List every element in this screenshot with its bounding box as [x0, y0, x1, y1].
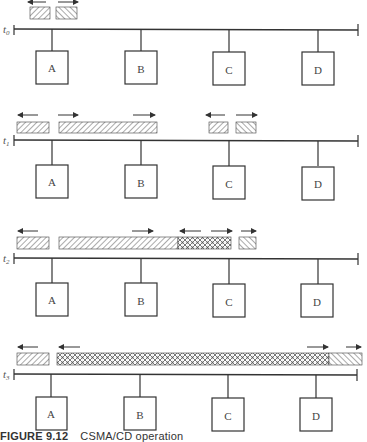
frame-hatch — [17, 237, 49, 249]
frame-hatch — [59, 237, 178, 249]
station-label: C — [224, 410, 231, 422]
station-label: B — [137, 295, 144, 307]
panel-t2: t2 A B C D — [3, 231, 358, 317]
station-label: B — [137, 63, 144, 75]
station-label: C — [225, 64, 232, 76]
frame-hatch — [59, 122, 157, 133]
frame-hatch — [17, 353, 49, 365]
station-label: A — [48, 62, 56, 74]
panel-t1: t1 A B C D — [3, 115, 358, 200]
frame-hatch — [56, 7, 77, 19]
station-label: D — [314, 64, 322, 76]
panel-t0: t0 A B C D — [3, 2, 358, 85]
frame-collision — [178, 237, 231, 249]
bus-line — [14, 374, 357, 375]
frame-hatch — [209, 122, 228, 133]
station-label: C — [225, 296, 232, 308]
station-label: A — [48, 176, 56, 188]
frame-hatch — [17, 122, 49, 133]
panel-t3: t3 A B C D — [3, 347, 362, 431]
station-label: D — [312, 410, 320, 422]
frame-hatch — [239, 237, 256, 249]
station-label: A — [47, 408, 55, 420]
frame-hatch — [236, 122, 256, 133]
time-label-t3: t3 — [3, 368, 10, 382]
figure-caption: FIGURE 9.12CSMA/CD operation — [0, 430, 183, 442]
figure-number: FIGURE 9.12 — [0, 430, 68, 442]
time-label-t0: t0 — [3, 23, 10, 37]
bus-line — [14, 140, 358, 141]
station-label: C — [225, 178, 232, 190]
time-label-t2: t2 — [3, 252, 10, 266]
station-label: D — [314, 178, 322, 190]
station-label: B — [136, 409, 143, 421]
bus-line — [14, 258, 358, 259]
csma-cd-diagram: t0 A B C D t1 — [0, 0, 367, 442]
bus-line — [14, 29, 358, 30]
frame-hatch — [30, 7, 50, 19]
frame-hatch — [329, 353, 362, 365]
station-label: B — [137, 177, 144, 189]
figure-caption-text: CSMA/CD operation — [80, 430, 183, 442]
time-label-t1: t1 — [3, 134, 10, 148]
station-label: D — [313, 296, 321, 308]
frame-collision — [57, 353, 329, 365]
station-label: A — [48, 294, 56, 306]
